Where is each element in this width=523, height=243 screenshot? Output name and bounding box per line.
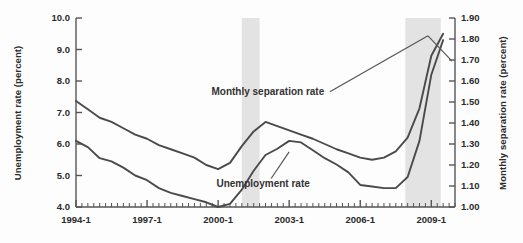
x-axis-tick-label: 1994-1 (61, 214, 91, 225)
x-axis-tick-label: 1997-1 (132, 214, 162, 225)
left-axis-tick-label: 8.0 (57, 75, 70, 86)
x-axis-tick-label: 2009-1 (417, 214, 447, 225)
right-axis-tick-label: 1.60 (461, 75, 480, 86)
right-axis-tick-label: 1.10 (461, 180, 480, 191)
dual-axis-line-chart: 4.05.06.07.08.09.010.01.001.101.201.301.… (0, 0, 523, 243)
x-axis-tick-label: 2006-1 (345, 214, 375, 225)
right-axis-title: Monthly separation rate (percent) (497, 36, 508, 190)
right-axis-tick-label: 1.40 (461, 117, 480, 128)
left-axis-tick-label: 4.0 (57, 201, 70, 212)
left-axis-title: Unemployment rate (percent) (12, 46, 23, 181)
x-axis-tick-label: 2003-1 (274, 214, 304, 225)
right-axis-tick-label: 1.70 (461, 54, 480, 65)
left-axis-tick-label: 5.0 (57, 170, 70, 181)
left-axis-tick-label: 10.0 (52, 12, 71, 23)
left-axis-tick-label: 6.0 (57, 138, 70, 149)
unemployment-rate-label: Unemployment rate (216, 178, 310, 189)
right-axis-tick-label: 1.30 (461, 138, 480, 149)
left-axis-tick-label: 7.0 (57, 107, 70, 118)
right-axis-tick-label: 1.20 (461, 159, 480, 170)
separation-rate-label: Monthly separation rate (211, 86, 324, 97)
right-axis-tick-label: 1.80 (461, 33, 480, 44)
right-axis-tick-label: 1.50 (461, 96, 480, 107)
chart-figure: 4.05.06.07.08.09.010.01.001.101.201.301.… (0, 0, 523, 243)
left-axis-tick-label: 9.0 (57, 44, 70, 55)
right-axis-tick-label: 1.00 (461, 201, 480, 212)
right-axis-tick-label: 1.90 (461, 12, 480, 23)
x-axis-tick-label: 2000-1 (203, 214, 233, 225)
